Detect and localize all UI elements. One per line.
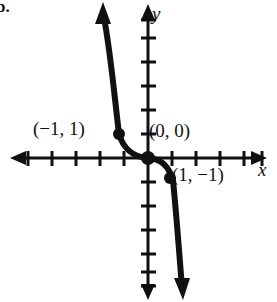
math-graph-figure: b. (−1, 1) (0, 0) (1, −1) y x	[0, 0, 277, 302]
curve-arrow-down-icon	[174, 278, 190, 300]
coordinate-plane-svg	[0, 0, 277, 302]
point-label-one-negative-one: (1, −1)	[172, 165, 224, 184]
x-axis-label: x	[258, 160, 266, 179]
point-marker-negative-one-one	[113, 128, 125, 140]
point-marker-origin	[141, 151, 155, 165]
y-axis-label: y	[152, 4, 160, 23]
curve-arrow-up-icon	[95, 2, 111, 24]
point-label-negative-one-one: (−1, 1)	[33, 119, 85, 138]
point-label-origin: (0, 0)	[149, 121, 190, 140]
exercise-label: b.	[0, 0, 10, 15]
x-axis-arrow-left-icon	[10, 151, 26, 165]
curve-path	[104, 18, 182, 288]
